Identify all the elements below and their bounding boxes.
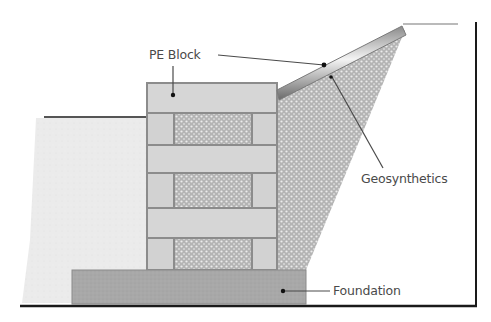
foundation-label: Foundation [333,283,401,298]
retaining-wall-diagram [0,0,491,322]
pe-block-label: PE Block [149,47,201,62]
geosynthetics-label: Geosynthetics [361,171,448,186]
foundation-slab [72,270,306,304]
pe-block-row-solid [147,208,277,238]
pe-block-cap [147,83,277,113]
pe-block-wall [147,83,277,270]
pe-block-row-solid [147,145,277,173]
